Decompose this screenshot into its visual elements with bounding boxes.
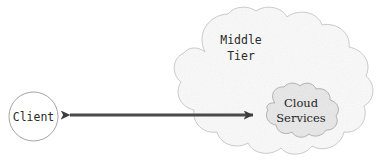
diagram-svg: Middle Tier Cloud Services Client: [0, 0, 378, 166]
client-node[interactable]: Client: [9, 92, 58, 141]
middle-tier-cloud-shape: [174, 7, 373, 154]
middle-tier-cloud-node[interactable]: Middle Tier: [174, 7, 373, 154]
middle-tier-label-line2: Tier: [227, 49, 255, 63]
cloud-services-label-line1: Cloud: [284, 96, 319, 110]
cloud-services-label-line2: Services: [276, 111, 326, 125]
middle-tier-label-line1: Middle: [220, 33, 262, 47]
client-label: Client: [13, 110, 55, 124]
diagram-canvas: Middle Tier Cloud Services Client: [0, 0, 378, 166]
